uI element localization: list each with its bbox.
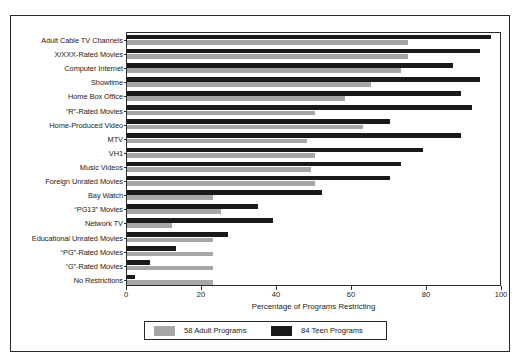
bar-teen-programs [127, 91, 461, 96]
bar-adult-programs [127, 125, 363, 130]
bar-adult-programs [127, 223, 172, 228]
legend-item-teen-programs: 84 Teen Programs [271, 326, 363, 336]
bar-teen-programs [127, 162, 401, 167]
bar-adult-programs [127, 68, 401, 73]
chart-row: X/XXX-Rated Movies [127, 47, 500, 61]
bar-adult-programs [127, 54, 408, 59]
bar-adult-programs [127, 139, 307, 144]
category-label: X/XXX-Rated Movies [54, 50, 123, 59]
legend-swatch-adult [154, 326, 175, 336]
bar-teen-programs [127, 218, 273, 223]
category-label: VH1 [109, 148, 123, 157]
chart-row: Music Videos [127, 160, 500, 174]
category-label: Network TV [85, 219, 123, 228]
x-axis-tick-label: 60 [347, 290, 355, 299]
category-label: “R”-Rated Movies [66, 106, 123, 115]
chart-legend: 58 Adult Programs 84 Teen Programs [144, 321, 387, 340]
bar-teen-programs [127, 148, 423, 153]
chart-row: “G”-Rated Movies [127, 259, 500, 273]
category-label: “PG13” Movies [74, 205, 123, 214]
bar-adult-programs [127, 153, 315, 158]
bar-teen-programs [127, 49, 480, 54]
category-label: Music Videos [80, 163, 123, 172]
bar-teen-programs [127, 190, 322, 195]
x-axis-tick-label: 80 [422, 290, 430, 299]
category-label: Bay Watch [88, 191, 123, 200]
plot-area: Adult Cable TV ChannelsX/XXX-Rated Movie… [126, 32, 501, 286]
chart-row: “PG”-Rated Movies [127, 245, 500, 259]
bar-teen-programs [127, 119, 390, 124]
bar-adult-programs [127, 252, 213, 257]
bar-teen-programs [127, 246, 176, 251]
category-label: “G”-Rated Movies [65, 261, 123, 270]
chart-row: Showtime [127, 75, 500, 89]
bar-teen-programs [127, 77, 480, 82]
chart-row: Home-Produced Video [127, 118, 500, 132]
category-label: Adult Cable TV Channels [41, 36, 123, 45]
bar-adult-programs [127, 280, 213, 285]
bar-adult-programs [127, 111, 315, 116]
chart-row: “R”-Rated Movies [127, 104, 500, 118]
category-label: Foreign Unrated Movies [45, 177, 123, 186]
chart-row: “PG13” Movies [127, 202, 500, 216]
bar-teen-programs [127, 63, 453, 68]
bar-teen-programs [127, 275, 135, 280]
chart-row: Educational Unrated Movies [127, 231, 500, 245]
category-label: Home Box Office [68, 92, 123, 101]
x-axis-tick-label: 100 [495, 290, 508, 299]
category-label: Educational Unrated Movies [32, 233, 123, 242]
x-axis-tick-label: 40 [272, 290, 280, 299]
bar-adult-programs [127, 40, 408, 45]
chart-row: Home Box Office [127, 89, 500, 103]
chart-row: VH1 [127, 146, 500, 160]
x-axis-title: Percentage of Programs Restricting [126, 302, 501, 311]
legend-item-adult-programs: 58 Adult Programs [154, 326, 246, 336]
bar-adult-programs [127, 82, 371, 87]
chart-row: Computer Internet [127, 61, 500, 75]
category-label: Home-Produced Video [49, 120, 123, 129]
bar-adult-programs [127, 167, 311, 172]
legend-label-adult: 58 Adult Programs [184, 326, 246, 335]
bar-teen-programs [127, 105, 472, 110]
category-label: MTV [108, 134, 123, 143]
x-axis-tick-labels: 020406080100 [126, 290, 501, 302]
bar-teen-programs [127, 133, 461, 138]
bar-adult-programs [127, 181, 315, 186]
category-label: Computer Internet [64, 64, 123, 73]
x-axis-tick-label: 0 [124, 290, 128, 299]
bar-teen-programs [127, 204, 258, 209]
bar-teen-programs [127, 35, 491, 40]
bar-teen-programs [127, 176, 390, 181]
bar-teen-programs [127, 232, 228, 237]
x-axis-tick-label: 20 [197, 290, 205, 299]
chart-row: MTV [127, 132, 500, 146]
category-label: No Restrictions [74, 275, 123, 284]
legend-swatch-teen [271, 326, 292, 336]
bar-adult-programs [127, 238, 213, 243]
chart-row: No Restrictions [127, 273, 500, 287]
category-label: Showtime [91, 78, 123, 87]
bar-adult-programs [127, 209, 221, 214]
chart-row: Network TV [127, 216, 500, 230]
chart-figure: Adult Cable TV ChannelsX/XXX-Rated Movie… [10, 15, 510, 352]
chart-row: Foreign Unrated Movies [127, 174, 500, 188]
category-label: “PG”-Rated Movies [61, 247, 123, 256]
bar-adult-programs [127, 266, 213, 271]
bar-adult-programs [127, 96, 345, 101]
bar-teen-programs [127, 260, 150, 265]
chart-row: Bay Watch [127, 188, 500, 202]
chart-row: Adult Cable TV Channels [127, 33, 500, 47]
bar-adult-programs [127, 195, 213, 200]
legend-label-teen: 84 Teen Programs [301, 326, 363, 335]
